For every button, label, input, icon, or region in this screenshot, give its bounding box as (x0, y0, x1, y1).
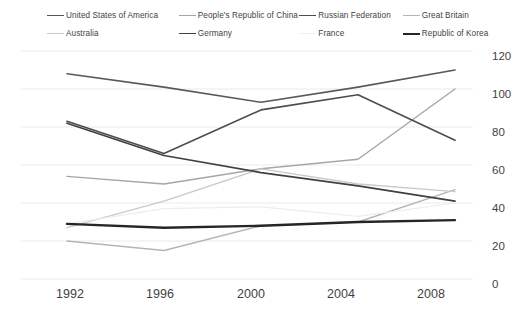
legend-item-united-states-of-america[interactable]: United States of America (47, 12, 179, 20)
legend-item-australia[interactable]: Australia (47, 30, 179, 38)
y-tick-label: 120 (492, 51, 526, 63)
legend-row-1: United States of America People's Republ… (47, 7, 497, 25)
legend-row-2: Australia Germany France Republic of Kor… (47, 25, 497, 43)
y-tick-label: 20 (492, 241, 526, 253)
legend-label: France (318, 30, 344, 38)
legend-swatch-icon (179, 15, 196, 16)
series-line-people-s-republic-of-china (67, 89, 455, 184)
x-tick-label: 1992 (40, 288, 100, 301)
legend-label: Germany (198, 30, 232, 38)
x-tick-label: 2008 (401, 288, 461, 301)
y-tick-label: 100 (492, 89, 526, 101)
legend-label: Russian Federation (318, 12, 390, 20)
legend-swatch-icon (47, 15, 64, 16)
series-line-republic-of-korea (67, 220, 455, 228)
legend-label: Republic of Korea (422, 30, 488, 38)
legend-label: People's Republic of China (198, 12, 298, 20)
chart-legend: United States of America People's Republ… (47, 7, 497, 43)
series-line-united-states-of-america (67, 70, 455, 102)
series-line-germany (67, 123, 455, 201)
legend-item-germany[interactable]: Germany (179, 30, 300, 38)
y-tick-label: 60 (492, 165, 526, 177)
series-line-russian-federation (67, 95, 455, 154)
plot-svg (21, 45, 473, 285)
legend-swatch-icon (299, 15, 316, 16)
legend-swatch-icon (403, 15, 420, 16)
legend-item-republic-of-korea[interactable]: Republic of Korea (403, 30, 497, 38)
x-tick-label: 2000 (221, 288, 281, 301)
legend-label: United States of America (66, 12, 158, 20)
series-line-australia (67, 169, 455, 228)
x-tick-label: 1996 (130, 288, 190, 301)
legend-item-great-britain[interactable]: Great Britain (403, 12, 497, 20)
legend-item-peoples-republic-of-china[interactable]: People's Republic of China (179, 12, 300, 20)
legend-item-russian-federation[interactable]: Russian Federation (299, 12, 403, 20)
y-tick-label: 0 (492, 279, 526, 291)
legend-item-france[interactable]: France (299, 30, 403, 38)
x-tick-label: 2004 (311, 288, 371, 301)
legend-label: Australia (66, 30, 99, 38)
legend-label: Great Britain (422, 12, 469, 20)
y-tick-label: 80 (492, 127, 526, 139)
gridlines (21, 51, 473, 279)
legend-swatch-icon (403, 33, 420, 35)
legend-swatch-icon (47, 33, 64, 34)
y-tick-label: 40 (492, 203, 526, 215)
plot-area (21, 45, 473, 285)
legend-swatch-icon (299, 33, 316, 34)
line-chart: United States of America People's Republ… (0, 0, 529, 324)
series-lines (67, 70, 455, 251)
legend-swatch-icon (179, 33, 196, 34)
